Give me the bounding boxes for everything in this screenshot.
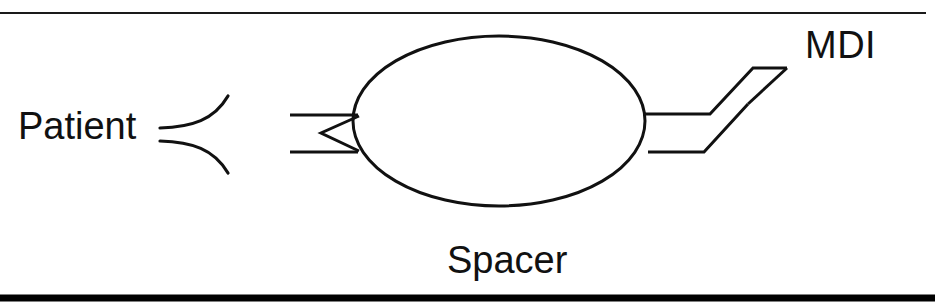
mdi-tube-upper-wall: [643, 68, 787, 114]
patient-label: Patient: [18, 107, 136, 145]
mouthpiece-upper-curve: [160, 96, 228, 128]
mdi-tube-lower-wall: [648, 104, 748, 152]
figure-root: Patient Spacer MDI: [0, 0, 935, 308]
mdi-label: MDI: [805, 26, 876, 64]
mdi-tube-end-edge: [748, 68, 787, 104]
spacer-label: Spacer: [447, 241, 567, 279]
mouthpiece-lower-curve: [160, 141, 228, 173]
spacer-ellipse: [353, 36, 645, 206]
